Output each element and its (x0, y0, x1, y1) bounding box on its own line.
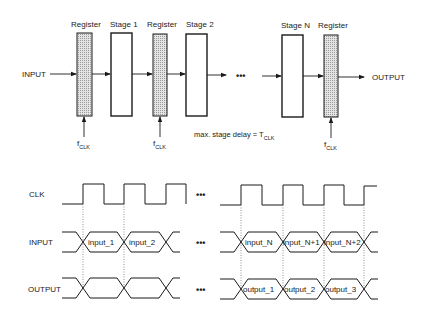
input-value-n: input_N (245, 238, 273, 247)
register-2-label: Register (147, 20, 177, 29)
stage-2-label: Stage 2 (186, 20, 214, 29)
fclk-label-1: fCLK (77, 139, 90, 150)
max-stage-delay-note: max. stage delay = TCLK (194, 130, 275, 141)
stages-ellipsis: ••• (236, 71, 245, 81)
stage-n-label: Stage N (281, 21, 310, 30)
output-label: OUTPUT (372, 73, 405, 82)
input-value-n-plus-1: input_N+1 (283, 238, 320, 247)
input-value-2: input_2 (129, 238, 156, 247)
input-label: INPUT (22, 70, 46, 79)
output-ellipsis: ••• (196, 285, 205, 295)
fclk-label-2: fCLK (153, 139, 166, 150)
output-value-3: output_3 (325, 285, 357, 294)
input-value-1: input_1 (88, 238, 115, 247)
fclk-label-3: fCLK (324, 140, 337, 151)
output-value-2: output_2 (284, 285, 316, 294)
output-value-1: output_1 (243, 285, 275, 294)
clk-waveform (62, 184, 377, 205)
block-diagram: Register Stage 1 Register Stage 2 Stage … (22, 20, 405, 151)
register-1-label: Register (71, 20, 101, 29)
input-signal-label: INPUT (29, 238, 53, 247)
pipeline-diagram: Register Stage 1 Register Stage 2 Stage … (0, 0, 431, 315)
stage-n-block (282, 35, 303, 117)
register-2-block (153, 34, 167, 116)
clk-signal-label: CLK (29, 190, 45, 199)
output-signal-label: OUTPUT (28, 285, 61, 294)
timing-diagram: CLK INPUT OUTPUT (28, 184, 378, 299)
clk-ellipsis: ••• (196, 190, 205, 200)
clock-edge-guides (83, 204, 364, 288)
input-ellipsis: ••• (196, 238, 205, 248)
register-1-block (77, 33, 92, 116)
stage-2-block (186, 34, 207, 116)
register-3-block (324, 35, 338, 117)
register-3-label: Register (318, 21, 348, 30)
input-value-n-plus-2: input_N+2 (324, 238, 361, 247)
stage-1-block (111, 33, 132, 116)
stage-1-label: Stage 1 (110, 20, 138, 29)
